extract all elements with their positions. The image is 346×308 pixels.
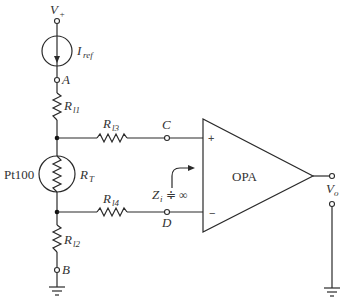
resistor-rl4-icon: R l4 bbox=[57, 191, 165, 216]
rl1-label: R bbox=[63, 98, 72, 113]
output-sub: o bbox=[334, 188, 339, 198]
node-d-label: D bbox=[161, 215, 172, 230]
impedance-label: Z bbox=[152, 187, 160, 202]
input-impedance-annotation: Z i ≑ ∞ bbox=[152, 165, 195, 204]
node-d: D bbox=[161, 210, 203, 231]
node-c-label: C bbox=[162, 117, 171, 132]
current-source-icon: I ref bbox=[42, 24, 94, 78]
resistor-rl1-icon: R l1 bbox=[53, 83, 80, 157]
circuit-diagram: V + I ref A R l1 R l3 C bbox=[0, 0, 346, 308]
rl3-label: R bbox=[102, 116, 111, 131]
rl2-label: R bbox=[63, 232, 72, 247]
current-source-label: I bbox=[76, 43, 82, 58]
rtd-sensor-icon: Pt100 R T bbox=[4, 156, 95, 225]
impedance-sub: i bbox=[160, 194, 163, 204]
node-c: C bbox=[162, 117, 203, 141]
ground-icon bbox=[49, 287, 65, 295]
rt-sub: T bbox=[89, 174, 95, 184]
opamp-label: OPA bbox=[232, 169, 257, 184]
ground-icon-output bbox=[324, 288, 340, 296]
opamp-icon: + − OPA bbox=[203, 119, 313, 232]
node-b-label: B bbox=[62, 262, 70, 277]
rl4-sub: l4 bbox=[112, 198, 120, 208]
supply-terminal: V + bbox=[50, 2, 65, 24]
supply-sub: + bbox=[59, 9, 65, 19]
plus-input-label: + bbox=[208, 132, 214, 144]
rl4-label: R bbox=[102, 191, 111, 206]
output-terminal: V o bbox=[313, 174, 339, 289]
rt-label: R bbox=[79, 167, 88, 182]
rl3-sub: l3 bbox=[112, 123, 120, 133]
impedance-value: ≑ ∞ bbox=[166, 188, 188, 202]
rl1-sub: l1 bbox=[73, 105, 80, 115]
sensor-label: Pt100 bbox=[4, 167, 34, 182]
resistor-rl3-icon: R l3 bbox=[57, 116, 165, 142]
node-a-label: A bbox=[61, 72, 70, 87]
rl2-sub: l2 bbox=[73, 239, 81, 249]
minus-input-label: − bbox=[209, 207, 215, 219]
current-source-sub: ref bbox=[83, 50, 94, 60]
